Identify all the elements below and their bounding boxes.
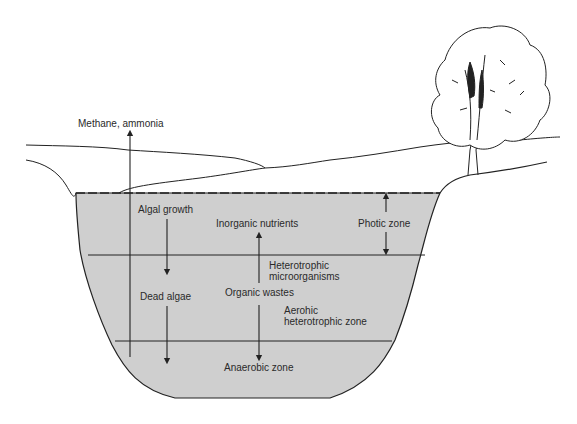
heterotrophic-label-line1: Heterotrophic	[269, 260, 329, 271]
heterotrophic-label-line2: microorganisms	[269, 271, 340, 282]
aerobic-zone-label-line2: heterotrophic zone	[284, 316, 367, 327]
tree-icon	[431, 26, 550, 175]
methane-ammonia-label: Methane, ammonia	[78, 118, 164, 129]
photic-zone-label: Photic zone	[358, 218, 410, 229]
organic-wastes-label: Organic wastes	[225, 287, 294, 298]
lake-diagram	[0, 0, 577, 424]
inorganic-nutrients-label: Inorganic nutrients	[216, 218, 298, 229]
dead-algae-label: Dead algae	[140, 291, 191, 302]
aerobic-zone-label-line1: Aerohic	[284, 305, 318, 316]
algal-growth-label: Algal growth	[138, 204, 193, 215]
anaerobic-zone-label: Anaerobic zone	[224, 362, 294, 373]
